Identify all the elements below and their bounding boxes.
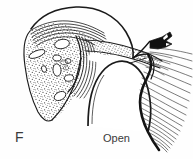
panel-letter-label: F [15,130,24,144]
figure-panel: F Open [0,0,193,159]
state-label: Open [103,133,130,144]
anatomical-line-drawing [0,0,193,159]
